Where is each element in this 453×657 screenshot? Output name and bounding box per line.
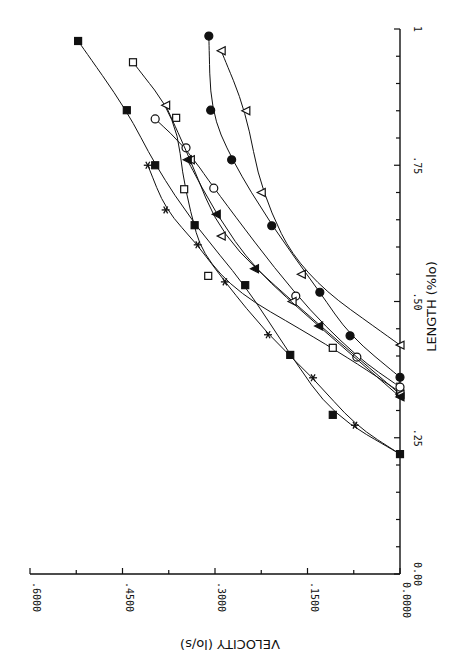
- length-tick-label: .25: [412, 429, 423, 447]
- square-marker: [329, 411, 336, 418]
- circle-marker: [228, 156, 236, 164]
- triangle-marker: [257, 189, 265, 197]
- series-line: [78, 41, 400, 454]
- circle-marker: [268, 222, 276, 230]
- series-line: [148, 165, 400, 454]
- series-line: [221, 51, 400, 345]
- square-marker: [329, 344, 336, 351]
- velocity-tick-label: .3000: [216, 582, 227, 612]
- length-axis-title: LENGTH (%lo): [424, 261, 439, 352]
- circle-marker: [210, 184, 218, 192]
- velocity-tick-label: .1500: [309, 582, 320, 612]
- circle-marker: [396, 373, 404, 381]
- circle-marker: [151, 115, 159, 123]
- length-tick-label: .75: [412, 156, 423, 174]
- triangle-marker: [217, 232, 225, 240]
- square-marker: [152, 162, 159, 169]
- velocity-tick-label: .6000: [31, 582, 42, 612]
- velocity-tick-label: 0.0000: [401, 582, 412, 618]
- triangle-marker: [183, 156, 191, 164]
- series-filled-triangle: [183, 156, 404, 401]
- series-open-triangle-left: [162, 101, 404, 398]
- square-marker: [129, 59, 136, 66]
- chart: 0.00.25.50.7510.0000.1500.3000.4500.6000…: [0, 0, 453, 657]
- series-line: [209, 36, 400, 377]
- square-marker: [181, 186, 188, 193]
- circle-marker: [205, 32, 213, 40]
- length-tick-label: 1: [412, 26, 423, 32]
- triangle-marker: [297, 270, 305, 278]
- velocity-tick-label: .4500: [124, 582, 135, 612]
- length-tick-label: 0.00: [412, 562, 423, 586]
- square-marker: [287, 351, 294, 358]
- triangle-marker: [217, 47, 225, 55]
- length-tick-label: .50: [412, 292, 423, 310]
- square-marker: [205, 272, 212, 279]
- series-open-triangle-right: [217, 47, 404, 349]
- velocity-axis-title: VELOCITY (lo/s): [180, 637, 280, 652]
- square-marker: [173, 114, 180, 121]
- circle-marker: [207, 106, 215, 114]
- axis-labels: 0.00.25.50.7510.0000.1500.3000.4500.6000…: [31, 26, 439, 652]
- series-group: [75, 32, 404, 458]
- circle-marker: [346, 332, 354, 340]
- square-marker: [75, 37, 82, 44]
- square-marker: [242, 282, 249, 289]
- circle-marker: [396, 383, 404, 391]
- square-marker: [123, 107, 130, 114]
- series-filled-square: [75, 37, 404, 457]
- circle-marker: [316, 288, 324, 296]
